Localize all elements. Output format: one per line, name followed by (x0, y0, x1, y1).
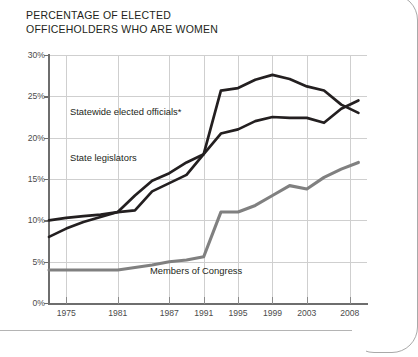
x-axis-tick-mark (350, 297, 351, 304)
series-line (49, 75, 358, 220)
x-axis-tick-label: 1995 (229, 308, 248, 318)
x-axis-tick-label: 2003 (297, 308, 316, 318)
x-axis-tick-label: 1987 (160, 308, 179, 318)
x-axis-tick-mark (272, 297, 273, 304)
series-label-state-legislators: State legislators (70, 152, 137, 163)
x-axis-tick-mark (238, 297, 239, 304)
x-axis-tick-mark (169, 297, 170, 304)
series-label-statewide: Statewide elected officials* (70, 106, 181, 117)
x-axis-tick-mark (307, 297, 308, 304)
series-line (49, 100, 358, 236)
x-axis-tick-label: 1991 (194, 308, 213, 318)
x-axis-tick-label: 1975 (57, 308, 76, 318)
x-axis-tick-label: 1999 (263, 308, 282, 318)
series-label-members-of-congress: Members of Congress (150, 265, 242, 276)
x-axis-tick-mark (204, 297, 205, 304)
x-axis-tick-label: 2008 (340, 308, 359, 318)
x-axis-tick-mark (118, 297, 119, 304)
x-axis-tick-label: 1981 (108, 308, 127, 318)
x-axis-tick-mark (66, 297, 67, 304)
